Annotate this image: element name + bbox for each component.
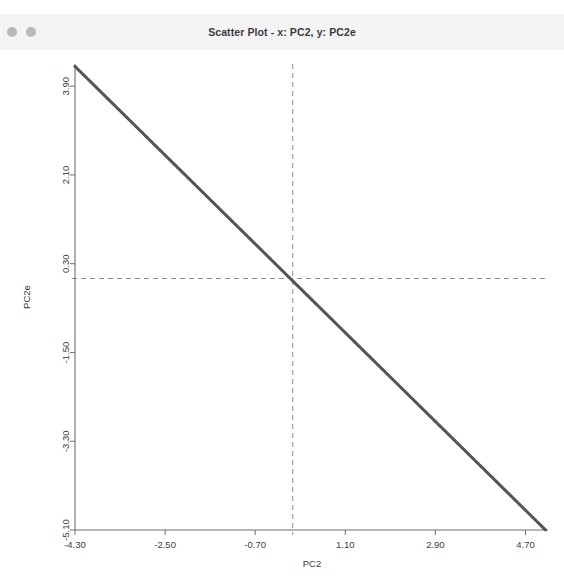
scatter-chart-svg[interactable]: -4.30-2.50-0.701.102.904.70 -5.10-3.30-1… <box>0 50 564 588</box>
x-tick-label: -2.50 <box>154 539 176 550</box>
x-axis-title: PC2 <box>303 558 321 569</box>
x-tick-label: 1.10 <box>336 539 355 550</box>
y-tick-label: 2.10 <box>60 166 71 185</box>
y-tick-label: 0.30 <box>60 254 71 273</box>
y-tick-label: -3.30 <box>60 430 71 452</box>
y-axis-tick-labels: -5.10-3.30-1.500.302.103.90 <box>60 77 71 541</box>
plot-group: -4.30-2.50-0.701.102.904.70 -5.10-3.30-1… <box>21 64 548 569</box>
y-axis-ticks <box>70 86 75 530</box>
scatter-points[interactable] <box>74 65 547 531</box>
window-top-strip <box>0 0 564 14</box>
x-tick-label: 2.90 <box>426 539 445 550</box>
y-axis-title: PC2e <box>21 285 32 309</box>
x-tick-label: -0.70 <box>244 539 266 550</box>
x-tick-label: 4.70 <box>516 539 535 550</box>
y-tick-label: -1.50 <box>60 342 71 364</box>
x-axis-tick-labels: -4.30-2.50-0.701.102.904.70 <box>64 539 535 550</box>
x-axis-ticks <box>75 530 525 535</box>
chart-area: -4.30-2.50-0.701.102.904.70 -5.10-3.30-1… <box>0 50 564 588</box>
y-tick-label: -5.10 <box>60 519 71 541</box>
y-tick-label: 3.90 <box>60 77 71 96</box>
scatter-plot-window: Scatter Plot - x: PC2, y: PC2e -4.30-2.5… <box>0 0 564 588</box>
window-title: Scatter Plot - x: PC2, y: PC2e <box>0 14 564 50</box>
window-titlebar: Scatter Plot - x: PC2, y: PC2e <box>0 14 564 51</box>
